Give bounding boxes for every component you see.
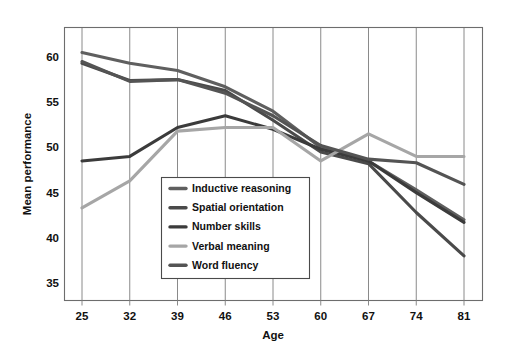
y-tick-label-35: 35 <box>46 277 59 289</box>
y-tick-label-60: 60 <box>46 51 59 63</box>
y-tick-label-40: 40 <box>46 232 59 244</box>
legend-label-verbal-meaning: Verbal meaning <box>192 240 270 252</box>
x-tick-label-60: 60 <box>314 310 327 322</box>
chart-canvas: 354045505560 253239465360677481 Mean per… <box>0 0 515 358</box>
line-chart: 354045505560 253239465360677481 Mean per… <box>0 0 515 358</box>
legend-label-spatial-orientation: Spatial orientation <box>192 201 284 213</box>
y-axis-title: Mean performance <box>21 113 33 215</box>
x-tick-label-25: 25 <box>76 310 89 322</box>
x-tick-label-32: 32 <box>123 310 136 322</box>
y-tick-label-50: 50 <box>46 141 59 153</box>
legend-label-number-skills: Number skills <box>192 220 261 232</box>
x-tick-label-46: 46 <box>219 310 232 322</box>
legend-label-word-fluency: Word fluency <box>192 259 258 271</box>
x-tick-label-67: 67 <box>362 310 375 322</box>
y-tick-label-45: 45 <box>46 187 59 199</box>
x-tick-label-74: 74 <box>410 310 423 322</box>
legend-label-inductive-reasoning: Inductive reasoning <box>192 182 291 194</box>
x-tick-label-81: 81 <box>458 310 471 322</box>
legend: Inductive reasoningSpatial orientationNu… <box>162 178 310 279</box>
x-axis-title: Age <box>262 329 284 341</box>
y-tick-label-55: 55 <box>46 96 59 108</box>
x-tick-label-53: 53 <box>267 310 280 322</box>
x-tick-label-39: 39 <box>171 310 184 322</box>
